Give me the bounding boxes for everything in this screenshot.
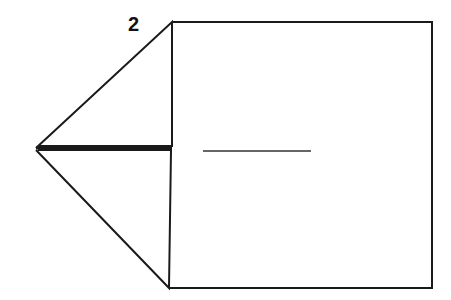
paper-square-outline bbox=[169, 22, 432, 288]
step-number-label: 2 bbox=[128, 14, 139, 34]
lower-flap bbox=[36, 150, 171, 288]
upper-flap bbox=[36, 22, 172, 148]
origami-diagram bbox=[0, 0, 451, 300]
